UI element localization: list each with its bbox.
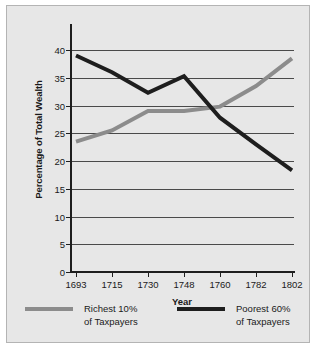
y-axis-tick-mark <box>66 106 71 107</box>
y-axis-title: Percentage of Total Wealth <box>33 60 44 220</box>
x-axis-tick-mark <box>292 272 293 277</box>
y-axis-tick-label: 5 <box>60 239 65 250</box>
legend-swatch-icon <box>25 307 73 311</box>
y-axis-tick-mark <box>66 272 71 273</box>
x-axis-tick-mark <box>256 272 257 277</box>
legend-label-line1: Poorest 60% <box>236 303 290 316</box>
y-axis-tick-mark <box>66 244 71 245</box>
y-axis-tick-mark <box>66 161 71 162</box>
legend-item[interactable]: Richest 10%of Taxpayers <box>25 303 138 328</box>
legend-label-line1: Richest 10% <box>84 303 138 316</box>
y-axis-tick-label: 20 <box>54 156 65 167</box>
legend-label: Richest 10%of Taxpayers <box>84 303 138 328</box>
y-axis-tick-label: 25 <box>54 128 65 139</box>
y-axis-tick-mark <box>66 78 71 79</box>
x-axis-tick-mark <box>220 272 221 277</box>
x-axis-tick-label: 1782 <box>245 279 266 290</box>
chart-figure: Percentage of Total Wealth Year 05101520… <box>6 5 310 343</box>
legend-label-line2: of Taxpayers <box>84 316 138 329</box>
x-axis-tick-label: 1748 <box>173 279 194 290</box>
y-axis-tick-label: 0 <box>60 267 65 278</box>
y-axis-tick-mark <box>66 217 71 218</box>
x-axis-tick-label: 1730 <box>137 279 158 290</box>
y-axis-tick-mark <box>66 189 71 190</box>
legend-swatch-icon <box>177 307 225 311</box>
y-axis-tick-label: 10 <box>54 211 65 222</box>
x-axis-tick-label: 1802 <box>281 279 302 290</box>
legend-item[interactable]: Poorest 60%of Taxpayers <box>177 303 290 328</box>
x-axis-tick-label: 1760 <box>209 279 230 290</box>
x-axis-tick-label: 1715 <box>101 279 122 290</box>
x-axis-tick-label: 1693 <box>65 279 86 290</box>
y-axis-tick-label: 35 <box>54 72 65 83</box>
y-axis-tick-mark <box>66 50 71 51</box>
x-axis-tick-mark <box>148 272 149 277</box>
x-axis-tick-mark <box>112 272 113 277</box>
chart-legend: Richest 10%of TaxpayersPoorest 60%of Tax… <box>25 303 293 335</box>
series-lines <box>70 24 294 272</box>
y-axis-tick-label: 40 <box>54 45 65 56</box>
y-axis-tick-label: 30 <box>54 100 65 111</box>
y-axis-tick-label: 15 <box>54 183 65 194</box>
y-axis-tick-mark <box>66 133 71 134</box>
x-axis-tick-mark <box>184 272 185 277</box>
plot-area: Year 05101520253035401693171517301748176… <box>70 24 294 272</box>
x-axis-tick-mark <box>76 272 77 277</box>
legend-label: Poorest 60%of Taxpayers <box>236 303 290 328</box>
legend-label-line2: of Taxpayers <box>236 316 290 329</box>
